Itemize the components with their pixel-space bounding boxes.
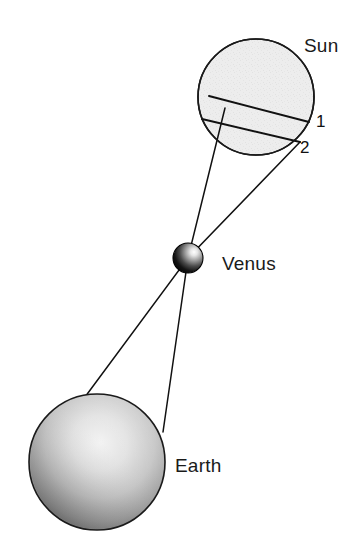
venus-disc: [173, 243, 203, 273]
transit-path-1-label: 1: [316, 113, 325, 130]
venus-body: [173, 243, 203, 273]
sight-line-b: [163, 142, 300, 432]
earth-terminator-shading: [30, 395, 164, 529]
venus-label: Venus: [222, 254, 276, 273]
sight-line-a: [85, 108, 225, 397]
earth-label: Earth: [175, 456, 221, 475]
sun-label: Sun: [304, 36, 338, 55]
transit-of-venus-diagram: Sun Venus Earth 1 2: [0, 0, 358, 550]
earth-body: [29, 394, 165, 530]
transit-path-2-label: 2: [300, 139, 309, 156]
